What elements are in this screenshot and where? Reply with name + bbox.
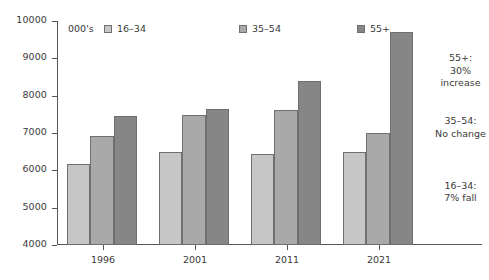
bar-2011-16–34: [251, 154, 275, 245]
legend-item-16–34[interactable]: 16–34: [104, 23, 146, 34]
x-axis-tick-label: 2021: [333, 254, 425, 265]
bar-2021-35–54: [366, 133, 390, 245]
annotation-line: 7% fall: [432, 192, 489, 205]
annotation-1: 55+:30%increase: [432, 52, 489, 90]
annotation-line: 16–34:: [432, 180, 489, 193]
y-axis-tick-label: 8000: [22, 89, 47, 100]
y-axis-tick-label: 4000: [22, 238, 47, 249]
annotation-line: 35–54:: [432, 115, 489, 128]
annotation-line: 30%: [432, 65, 489, 78]
x-axis-tick-mark: [379, 245, 380, 250]
bar-2021-16–34: [343, 152, 367, 245]
annotation-line: increase: [432, 77, 489, 90]
bar-2011-55+: [298, 81, 322, 245]
x-axis-tick-mark: [287, 245, 288, 250]
legend-item-55+[interactable]: 55+: [357, 23, 390, 34]
bar-2001-55+: [206, 109, 230, 245]
x-axis-tick-label: 2011: [241, 254, 333, 265]
chart-legend: 000's 16–3435–5455+: [57, 21, 425, 39]
bar-1996-35–54: [90, 136, 114, 245]
legend-swatch-icon: [104, 25, 112, 33]
legend-item-label: 16–34: [117, 23, 146, 34]
legend-item-35–54[interactable]: 35–54: [239, 23, 281, 34]
y-axis-tick-label: 5000: [22, 201, 47, 212]
annotation-panel: 55+:30%increase35–54:No change16–34:7% f…: [432, 21, 489, 245]
legend-swatch-icon: [239, 25, 247, 33]
annotation-line: No change: [432, 128, 489, 141]
legend-unit-label: 000's: [68, 23, 94, 34]
bar-2001-35–54: [182, 115, 206, 245]
annotation-3: 16–34:7% fall: [432, 180, 489, 205]
legend-item-label: 35–54: [252, 23, 281, 34]
bar-2001-16–34: [159, 152, 183, 245]
x-axis-tick-label: 2001: [149, 254, 241, 265]
annotation-line: 55+:: [432, 52, 489, 65]
y-axis-tick-label: 9000: [22, 51, 47, 62]
y-axis-tick-mark: [52, 245, 57, 246]
legend-item-label: 55+: [370, 23, 390, 34]
annotation-2: 35–54:No change: [432, 115, 489, 140]
legend-swatch-icon: [357, 25, 365, 33]
y-axis-tick-label: 10000: [16, 14, 47, 25]
bar-1996-16–34: [67, 164, 91, 245]
bar-2011-35–54: [274, 110, 298, 245]
y-axis-tick-label: 6000: [22, 163, 47, 174]
bar-2021-55+: [390, 32, 414, 245]
plot-area: [57, 21, 425, 245]
bar-1996-55+: [114, 116, 138, 245]
x-axis-tick-label: 1996: [57, 254, 149, 265]
y-axis-tick-label: 7000: [22, 126, 47, 137]
bar-chart: 40005000600070008000900010000 1996200120…: [0, 0, 489, 280]
x-axis-tick-mark: [103, 245, 104, 250]
x-axis-tick-mark: [195, 245, 196, 250]
